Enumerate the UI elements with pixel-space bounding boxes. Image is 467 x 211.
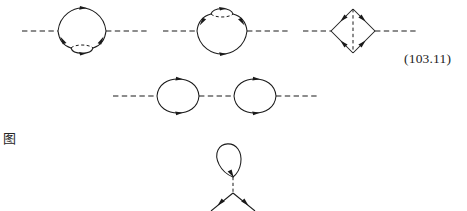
diagram-5-arrowhead-right-leg [241, 198, 248, 205]
diagram-4-bubble-2-upper-arc [234, 79, 276, 96]
diagram-4-bubble-2-arrowhead-top [252, 77, 260, 81]
diagram-3-diamond-box-with-internal-dashed-line [303, 9, 418, 53]
diagram-4-two-bubble-chain [113, 77, 320, 115]
diagram-2-self-energy-loop-with-upper-bubble [163, 7, 290, 56]
diagram-1-loop-lower-left-arc [58, 31, 71, 48]
diagram-2-bubble-dashed-lower-arc [211, 14, 233, 17]
diagram-1-loop-upper-arc [58, 8, 106, 31]
equation-number: (103.11) [404, 51, 451, 67]
diagram-4-bubble-2-lower-arc [234, 96, 276, 113]
diagram-4-bubble-1-arrowhead-top [175, 77, 183, 81]
diagram-1-arrowhead-top [79, 6, 87, 10]
diagram-5-tadpole-vertex-diagram [211, 144, 255, 211]
figure-caption-label: 图 [3, 128, 16, 147]
diagram-2-arrowhead-bottom [219, 52, 227, 56]
diagram-1-bubble-solid-lower-arc [71, 48, 93, 53]
diagram-5-arrowhead-left-leg [218, 198, 225, 205]
diagram-4-bubble-1-upper-arc [157, 79, 199, 96]
diagram-1-self-energy-loop-with-lower-bubble [22, 6, 150, 56]
diagram-2-loop-upper-right-arc [233, 14, 247, 31]
diagram-2-loop-lower-arc [197, 31, 247, 54]
diagram-2-arrowhead-left-upper [200, 18, 207, 26]
diagram-1-bubble-dashed-upper-arc [71, 45, 93, 48]
diagram-4-bubble-1-lower-arc [157, 96, 199, 113]
diagram-1-loop-lower-right-arc [93, 31, 106, 48]
diagram-2-loop-upper-left-arc [197, 14, 211, 31]
feynman-diagram-figure [0, 0, 467, 211]
